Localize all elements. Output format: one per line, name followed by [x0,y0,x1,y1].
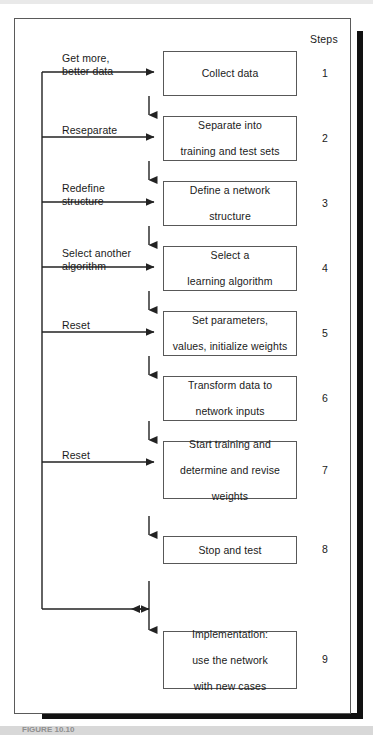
process-box-step-5-line2: values, initialize weights [170,340,291,353]
process-box-step-4-line2: learning algorithm [184,275,275,288]
feedback-label-reset-step-5: Reset [62,319,90,332]
process-box-step-5[interactable]: Set parameters,values, initialize weight… [163,311,297,356]
step-number-4: 4 [315,262,335,274]
step-number-3: 3 [315,197,335,209]
step-number-8: 8 [315,543,335,555]
step-number-5: 5 [315,327,335,339]
process-box-step-9-line2: use the network [189,654,271,667]
step-number-7: 7 [315,464,335,476]
figure-shadow-right [357,31,363,719]
scan-top-edge [0,0,373,4]
process-box-step-7-label: Start training anddetermine and revisewe… [174,438,286,503]
process-box-step-9[interactable]: Implementation:use the networkwith new c… [163,631,297,689]
feedback-label-reseparate: Reseparate [62,124,117,137]
process-box-step-6[interactable]: Transform data tonetwork inputs [163,376,297,421]
process-box-step-2-line2: training and test sets [177,145,282,158]
process-box-step-5-label: Set parameters,values, initialize weight… [167,314,294,353]
process-box-step-8[interactable]: Stop and test [163,536,297,564]
process-box-step-7-line1: Start training and [177,438,283,451]
step-number-2: 2 [315,132,335,144]
feedback-label-reset-step-7: Reset [62,449,90,462]
figure-caption-text: FIGURE 10.10 [22,726,74,734]
process-box-step-6-line1: Transform data to [185,379,275,392]
process-box-step-2-line1: Separate into [177,119,282,132]
process-box-step-3-line1: Define a network [187,184,273,197]
feedback-label-select-another-algorithm: Select another algorithm [62,247,131,273]
process-box-step-2[interactable]: Separate intotraining and test sets [163,116,297,161]
process-box-step-4-line1: Select a [184,249,275,262]
return-arrowhead [131,605,140,613]
process-box-step-1-label: Collect data [199,67,262,80]
step-number-9: 9 [315,653,335,665]
process-box-step-6-line2: network inputs [185,405,275,418]
process-box-step-9-line1: Implementation: [189,628,271,641]
step-number-1: 1 [315,67,335,79]
process-box-step-3[interactable]: Define a networkstructure [163,181,297,226]
process-box-step-8-label: Stop and test [195,544,264,557]
process-box-step-1[interactable]: Collect data [163,51,297,96]
process-box-step-3-line2: structure [187,210,273,223]
steps-column-header: Steps [310,33,338,45]
step-number-6: 6 [315,392,335,404]
process-box-step-9-label: Implementation:use the networkwith new c… [186,628,274,693]
flowchart-canvas: Collect data Separate intotraining and t… [15,19,350,713]
process-box-step-5-line1: Set parameters, [170,314,291,327]
figure-frame: Collect data Separate intotraining and t… [14,18,351,714]
process-box-step-2-label: Separate intotraining and test sets [174,119,285,158]
process-box-step-6-label: Transform data tonetwork inputs [182,379,278,418]
process-box-step-7-line3: weights [177,490,283,503]
process-box-step-3-label: Define a networkstructure [184,184,276,223]
feedback-label-get-more-better-data: Get more, better data [62,52,113,78]
figure-caption-strip: FIGURE 10.10 [0,726,373,735]
feedback-label-redefine-structure: Redefine structure [62,182,105,208]
process-box-step-7[interactable]: Start training anddetermine and revisewe… [163,441,297,499]
process-box-step-7-line2: determine and revise [177,464,283,477]
process-box-step-9-line3: with new cases [189,680,271,693]
process-box-step-4[interactable]: Select alearning algorithm [163,246,297,291]
process-box-step-4-label: Select alearning algorithm [181,249,278,288]
